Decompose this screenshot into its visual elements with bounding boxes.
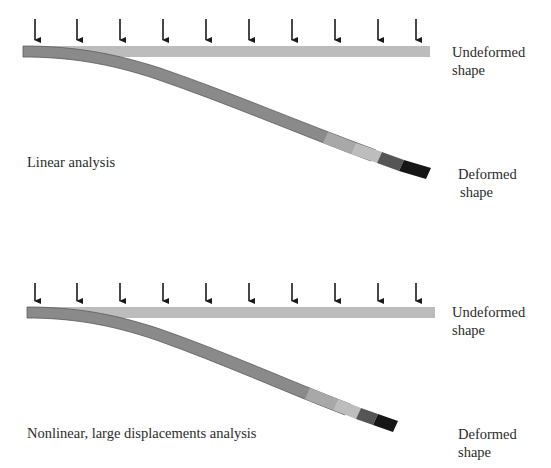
nonlinear-panel: [27, 283, 435, 432]
undeformed-shape-label: Undeformed shape: [452, 43, 525, 79]
deformed-tip-bands: [305, 388, 398, 432]
deformed-tip-bands: [323, 132, 431, 179]
linear-analysis-caption: Linear analysis: [27, 154, 115, 171]
undeformed-shape-label: Undeformed shape: [452, 303, 525, 339]
deformed-beam: [27, 307, 350, 415]
deformed-beam: [23, 46, 376, 161]
nonlinear-analysis-caption: Nonlinear, large displacements analysis: [27, 425, 256, 442]
load-arrows: [35, 19, 416, 40]
deformed-shape-label: Deformed shape: [458, 165, 517, 201]
load-arrows: [35, 283, 416, 301]
deformed-shape-label: Deformed shape: [458, 425, 517, 461]
